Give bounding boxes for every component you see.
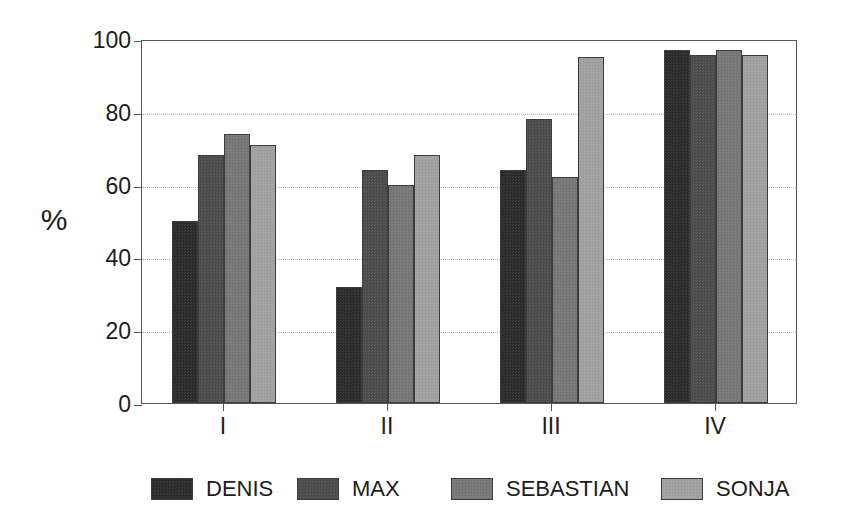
x-tick-mark-iv: [715, 404, 716, 411]
bar-chart-figure: % 020406080100 IIIIIIIV DENISMAXSEBASTIA…: [0, 0, 868, 526]
legend-label-denis: DENIS: [206, 478, 273, 500]
y-tick-mark-100: [134, 41, 142, 42]
chart-legend: DENISMAXSEBASTIANSONJA: [141, 474, 801, 508]
legend-label-sebastian: SEBASTIAN: [506, 478, 629, 500]
bar-denis-iv: [664, 50, 690, 403]
legend-swatch-max: [297, 478, 339, 500]
bar-sebastian-i: [224, 134, 250, 403]
bar-sebastian-ii: [388, 185, 414, 403]
legend-swatch-sonja: [661, 478, 703, 500]
x-tick-label-ii: II: [357, 413, 417, 439]
bar-sonja-iii: [578, 57, 604, 403]
bar-max-iv: [690, 55, 716, 403]
y-axis-tick-labels: 020406080100: [63, 40, 131, 404]
bar-denis-iii: [500, 170, 526, 403]
legend-label-sonja: SONJA: [716, 478, 789, 500]
bar-max-iii: [526, 119, 552, 403]
y-tick-mark-60: [134, 187, 142, 188]
legend-item-max[interactable]: MAX: [297, 474, 400, 504]
legend-swatch-sebastian: [451, 478, 493, 500]
bar-sonja-i: [250, 145, 276, 403]
bar-denis-i: [172, 221, 198, 403]
x-tick-mark-iii: [551, 404, 552, 411]
x-tick-label-iv: IV: [685, 413, 745, 439]
y-tick-label-0: 0: [71, 393, 131, 416]
legend-swatch-denis: [151, 478, 193, 500]
legend-item-sebastian[interactable]: SEBASTIAN: [451, 474, 629, 504]
x-tick-label-iii: III: [521, 413, 581, 439]
x-tick-mark-i: [223, 404, 224, 411]
y-tick-label-60: 60: [71, 175, 131, 198]
y-tick-label-80: 80: [71, 102, 131, 125]
bar-sebastian-iv: [716, 50, 742, 403]
bar-denis-ii: [336, 287, 362, 403]
bar-sonja-iv: [742, 55, 768, 403]
y-tick-mark-40: [134, 259, 142, 260]
bar-max-i: [198, 155, 224, 403]
y-tick-label-20: 20: [71, 320, 131, 343]
y-tick-label-100: 100: [71, 29, 131, 52]
plot-inner: [142, 41, 796, 403]
y-tick-mark-0: [134, 405, 142, 406]
y-tick-label-40: 40: [71, 247, 131, 270]
bar-sonja-ii: [414, 155, 440, 403]
bar-max-ii: [362, 170, 388, 403]
bar-sebastian-iii: [552, 177, 578, 403]
x-tick-label-i: I: [193, 413, 253, 439]
legend-label-max: MAX: [352, 478, 400, 500]
plot-area: [141, 40, 797, 404]
y-tick-mark-80: [134, 114, 142, 115]
y-tick-mark-20: [134, 332, 142, 333]
legend-item-denis[interactable]: DENIS: [151, 474, 273, 504]
legend-item-sonja[interactable]: SONJA: [661, 474, 789, 504]
x-tick-mark-ii: [387, 404, 388, 411]
